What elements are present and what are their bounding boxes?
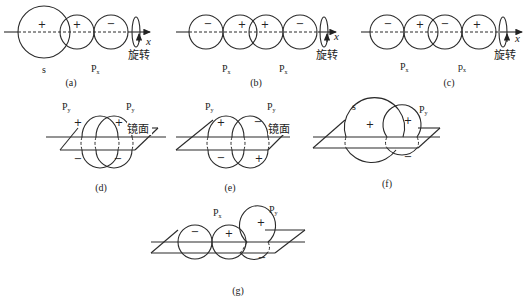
svg-text:+: + — [261, 19, 269, 30]
svg-text:+: + — [255, 153, 263, 164]
svg-text:−: − — [204, 18, 212, 29]
svg-text:+: + — [366, 119, 374, 130]
svg-text:−: − — [254, 116, 262, 127]
svg-text:(g): (g) — [232, 285, 244, 297]
svg-text:+: + — [115, 117, 123, 128]
svg-text:−: − — [384, 18, 392, 29]
panel-g: − + + − Px Py (g) — [151, 204, 305, 297]
svg-text:−: − — [441, 18, 449, 29]
svg-text:Py: Py — [267, 101, 276, 113]
svg-text:+: + — [404, 115, 412, 126]
svg-text:+: + — [73, 19, 81, 30]
panel-a: + + − x 旋转 s Px (a) — [4, 6, 151, 89]
svg-text:(d): (d) — [95, 182, 107, 194]
svg-text:−: − — [296, 18, 304, 29]
panel-e: + − − + Py Py 镜面 (e) — [176, 101, 293, 194]
svg-text:旋转: 旋转 — [494, 48, 516, 62]
svg-text:(c): (c) — [443, 77, 454, 89]
svg-text:Py: Py — [62, 101, 71, 113]
svg-text:Py: Py — [419, 104, 428, 116]
svg-text:−: − — [258, 252, 266, 263]
svg-text:+: + — [74, 117, 82, 128]
svg-text:(a): (a) — [65, 77, 76, 89]
svg-text:镜面: 镜面 — [268, 122, 290, 136]
svg-text:+: + — [217, 117, 225, 128]
svg-text:x: x — [514, 32, 520, 44]
svg-text:−: − — [107, 18, 115, 29]
svg-text:(f): (f) — [382, 178, 392, 190]
svg-text:Px: Px — [400, 61, 409, 73]
svg-text:px: px — [458, 61, 466, 73]
svg-text:s: s — [352, 101, 356, 112]
svg-text:−: − — [217, 152, 225, 163]
svg-text:+: + — [416, 19, 424, 30]
panel-c: − + − + x 旋转 Px px (c) — [361, 15, 522, 89]
svg-text:−: − — [114, 153, 122, 164]
svg-text:−: − — [191, 226, 199, 237]
svg-text:Py: Py — [126, 101, 135, 113]
panel-d: + + − − Py Py 镜面 (d) — [46, 101, 166, 194]
svg-text:+: + — [257, 217, 265, 228]
svg-text:+: + — [238, 19, 246, 30]
svg-text:旋转: 旋转 — [316, 48, 338, 62]
svg-text:+: + — [38, 19, 46, 30]
svg-text:旋转: 旋转 — [128, 48, 150, 62]
panel-b: − + + − x 旋转 Px Px (b) — [176, 15, 339, 89]
svg-text:+: + — [473, 19, 481, 30]
svg-text:Py: Py — [205, 101, 214, 113]
svg-text:Py: Py — [269, 204, 278, 216]
svg-text:Px: Px — [279, 63, 288, 75]
svg-text:镜面: 镜面 — [127, 122, 149, 136]
svg-text:s: s — [42, 64, 46, 75]
svg-text:−: − — [74, 153, 82, 164]
svg-text:(b): (b) — [250, 77, 262, 89]
svg-text:Px: Px — [91, 63, 100, 75]
svg-text:x: x — [145, 35, 151, 47]
svg-text:−: − — [404, 151, 412, 162]
svg-text:+: + — [225, 228, 233, 239]
orbital-overlap-diagram: + + − x 旋转 s Px (a) − + + − x 旋转 Px Px (… — [0, 0, 526, 302]
svg-text:Px: Px — [213, 207, 222, 219]
svg-text:(e): (e) — [224, 182, 235, 194]
panel-f: + + − s Py (f) — [313, 98, 440, 190]
svg-text:x: x — [333, 30, 339, 42]
svg-text:Px: Px — [222, 63, 231, 75]
